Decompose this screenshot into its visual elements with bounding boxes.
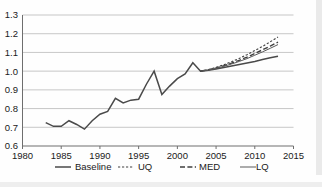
chart-figure: 0.60.70.80.91.01.11.21.3 198019851990199…: [0, 0, 322, 187]
y-tick-1.3: 1.3: [5, 9, 18, 20]
x-axis-tick-labels: 19801985199019952000200520102015: [12, 146, 304, 161]
chart-plot-frame: 0.60.70.80.91.01.11.21.3 198019851990199…: [0, 0, 322, 187]
scan-edge-bottom: [0, 182, 322, 187]
legend-label-uq: UQ: [138, 161, 152, 172]
legend-label-med: MED: [199, 161, 220, 172]
legend-label-lq: LQ: [256, 161, 269, 172]
series-line-med: [201, 42, 278, 71]
x-tick-1980: 1980: [12, 150, 33, 161]
y-tick-1.0: 1.0: [5, 66, 18, 77]
legend-label-baseline: Baseline: [75, 161, 111, 172]
y-axis-tick-labels: 0.60.70.80.91.01.11.21.3: [5, 9, 18, 151]
y-tick-0.9: 0.9: [5, 84, 18, 95]
x-tick-1995: 1995: [128, 150, 149, 161]
x-tick-1990: 1990: [89, 150, 110, 161]
line-chart-canvas: 0.60.70.80.91.01.11.21.3 198019851990199…: [0, 0, 322, 187]
y-tick-0.8: 0.8: [5, 103, 18, 114]
series-line-baseline: [46, 56, 278, 129]
x-tick-2015: 2015: [283, 150, 304, 161]
x-tick-1985: 1985: [51, 150, 72, 161]
x-tick-2000: 2000: [167, 150, 188, 161]
chart-legend: BaselineUQMEDLQ: [55, 161, 269, 172]
data-series-group: [46, 37, 278, 129]
series-line-uq: [201, 37, 278, 71]
y-tick-1.2: 1.2: [5, 28, 18, 39]
scan-edge-right: [316, 0, 322, 175]
x-tick-2010: 2010: [244, 150, 265, 161]
y-tick-0.7: 0.7: [5, 122, 18, 133]
y-tick-1.1: 1.1: [5, 47, 18, 58]
x-tick-2005: 2005: [205, 150, 226, 161]
